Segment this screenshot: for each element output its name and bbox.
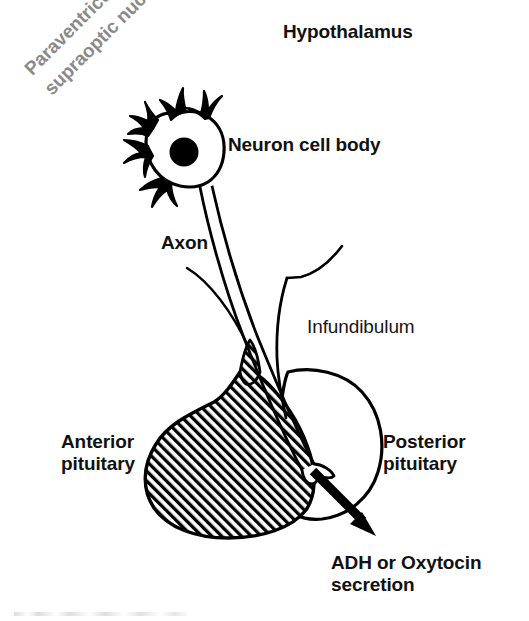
infundibulum-top-rim xyxy=(287,246,342,278)
scan-artifact xyxy=(14,612,189,616)
dendrite-lower-left xyxy=(140,178,177,207)
label-infundibulum: Infundibulum xyxy=(307,316,415,338)
label-posterior-pituitary: Posterior pituitary xyxy=(383,431,466,476)
label-anterior-pituitary: Anterior pituitary xyxy=(61,431,135,476)
pituitary-stalk-neck xyxy=(240,340,260,385)
hypothalamus-floor-curve xyxy=(187,268,248,346)
label-adh-oxytocin-secretion: ADH or Oxytocin secretion xyxy=(331,552,482,597)
label-hypothalamus: Hypothalamus xyxy=(283,21,413,43)
diagram-canvas xyxy=(0,0,529,621)
anatomy-figure: Hypothalamus Paraventricular and supraop… xyxy=(0,0,529,621)
dendrite-left xyxy=(124,140,153,177)
label-axon: Axon xyxy=(161,232,208,254)
label-neuron-cell-body: Neuron cell body xyxy=(228,134,381,156)
neuron-nucleus xyxy=(170,138,199,167)
